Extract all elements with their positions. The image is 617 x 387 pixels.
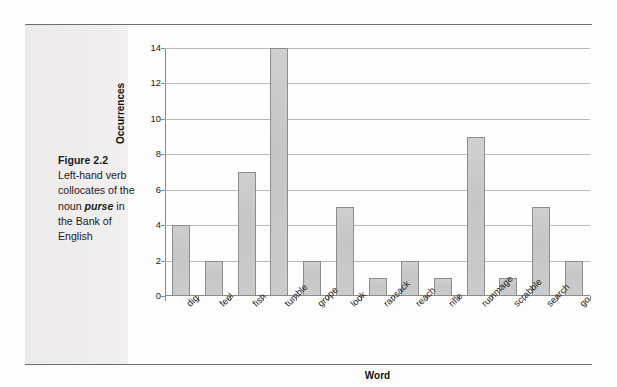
bar-rummage[interactable]	[467, 137, 485, 296]
y-tick-label-6: 6	[139, 184, 161, 195]
x-tick-labels: digfeelfishtumblegropelookransackreachri…	[165, 301, 590, 361]
y-tick-label-14: 14	[139, 42, 161, 53]
bottom-rule	[25, 364, 592, 365]
plot-area: 02468101214 Occurrences digfeelfishtumbl…	[165, 48, 590, 296]
y-tick-label-2: 2	[139, 255, 161, 266]
caption-line-3-before: noun	[58, 200, 85, 212]
bar-fish[interactable]	[238, 172, 256, 296]
y-tick-labels: 02468101214	[137, 48, 161, 296]
caption-panel: Figure 2.2 Left-hand verb collocates of …	[25, 25, 128, 364]
bar-series	[165, 48, 590, 296]
bar-ransack[interactable]	[369, 278, 387, 296]
y-axis-title: Occurrences	[115, 83, 126, 144]
bar-feel[interactable]	[205, 261, 223, 296]
bar-rifle[interactable]	[434, 278, 452, 296]
bar-tumble[interactable]	[270, 48, 288, 296]
caption-emphasis-purse: purse	[85, 200, 114, 212]
y-tick-label-10: 10	[139, 113, 161, 124]
bar-look[interactable]	[336, 207, 354, 296]
y-tick-label-0: 0	[139, 290, 161, 301]
y-tick-label-8: 8	[139, 148, 161, 159]
caption-line-3-after: in	[113, 200, 124, 212]
bar-dig[interactable]	[172, 225, 190, 296]
x-axis-title: Word	[165, 370, 590, 381]
y-tick-label-4: 4	[139, 219, 161, 230]
bar-chart: 02468101214 Occurrences digfeelfishtumbl…	[128, 25, 592, 364]
y-tick-label-12: 12	[139, 77, 161, 88]
figure-page: Figure 2.2 Left-hand verb collocates of …	[0, 0, 617, 387]
